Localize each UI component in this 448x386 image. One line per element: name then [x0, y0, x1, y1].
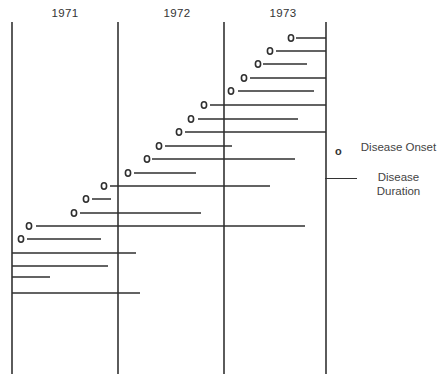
onset-marker [101, 183, 106, 189]
year-label-1971: 1971 [52, 7, 79, 19]
patient-row [267, 48, 326, 54]
onset-marker [228, 88, 233, 94]
patient-row [176, 129, 326, 135]
onset-marker [144, 156, 149, 162]
patient-row [228, 88, 314, 94]
onset-marker [288, 35, 293, 41]
patient-row [241, 75, 326, 81]
onset-marker [26, 223, 31, 229]
patient-row [26, 223, 305, 229]
onset-marker [176, 129, 181, 135]
patient-row [288, 35, 326, 41]
patient-row [83, 196, 111, 202]
legend-duration-label: Disease Duration [356, 170, 441, 198]
year-label-1972: 1972 [164, 7, 191, 19]
patient-row [125, 170, 196, 176]
onset-marker [156, 143, 161, 149]
patient-row [156, 143, 232, 149]
patient-row [201, 102, 326, 108]
onset-marker [201, 102, 206, 108]
legend: o Disease Onset Disease Duration [330, 140, 448, 250]
onset-marker [255, 61, 260, 67]
onset-marker [18, 236, 23, 242]
patient-rows [12, 35, 326, 293]
patient-row [255, 61, 307, 67]
duration-line-icon [325, 178, 357, 179]
patient-row [18, 236, 101, 242]
onset-marker [241, 75, 246, 81]
year-label-1973: 1973 [270, 7, 297, 19]
onset-marker [71, 210, 76, 216]
onset-marker-icon: o [335, 145, 342, 157]
patient-row [188, 116, 298, 122]
onset-marker [188, 116, 193, 122]
onset-marker [125, 170, 130, 176]
patient-row [71, 210, 201, 216]
patient-row [101, 183, 270, 189]
legend-onset-label: Disease Onset [356, 140, 441, 154]
patient-row [144, 156, 295, 162]
disease-timeline-chart: 1971 1972 1973 o Disease Onset Disease D… [0, 0, 448, 386]
onset-marker [267, 48, 272, 54]
onset-marker [83, 196, 88, 202]
